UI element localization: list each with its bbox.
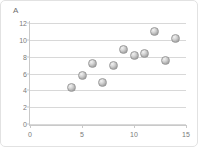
x-tick-label: 15 [182, 131, 190, 138]
y-tick-mark [27, 39, 30, 40]
scatter-point [130, 51, 139, 60]
gridline [30, 23, 186, 24]
y-tick-mark [27, 73, 30, 74]
x-tick-mark [186, 125, 187, 128]
x-tick-mark [30, 125, 31, 128]
x-tick-mark [82, 125, 83, 128]
y-tick-label: 10 [19, 36, 27, 43]
y-tick-mark [27, 23, 30, 24]
scatter-point [140, 49, 149, 58]
scatter-point [78, 71, 87, 80]
gridline [30, 107, 186, 108]
y-axis-title: A [13, 7, 18, 15]
scatter-point [161, 56, 170, 65]
y-tick-mark [27, 90, 30, 91]
scatter-point [171, 34, 180, 43]
gridline [30, 90, 186, 91]
plot-area: 024681012 [30, 23, 186, 124]
x-tick-label: 10 [130, 131, 138, 138]
scatter-point [109, 61, 118, 70]
scatter-point [98, 78, 107, 87]
scatter-point [119, 45, 128, 54]
gridline [30, 74, 186, 75]
scatter-point [88, 59, 97, 68]
x-tick-label: 0 [28, 131, 32, 138]
x-tick-label: 5 [80, 131, 84, 138]
x-tick-mark [134, 125, 135, 128]
y-tick-label: 12 [19, 20, 27, 27]
y-tick-mark [27, 107, 30, 108]
y-tick-mark [27, 56, 30, 57]
scatter-chart-card: A 024681012 051015 [0, 0, 198, 147]
scatter-point [150, 27, 159, 36]
gridline [30, 40, 186, 41]
x-axis-ticks: 051015 [30, 125, 186, 145]
